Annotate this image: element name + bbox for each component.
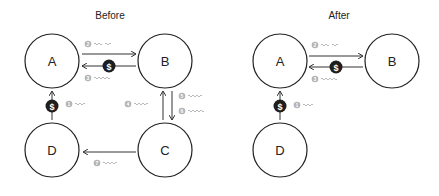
svg-text:$: $ <box>49 102 54 112</box>
node-label: D <box>275 143 284 158</box>
svg-text:2: 2 <box>314 42 317 48</box>
svg-text:1: 1 <box>296 102 299 108</box>
svg-text:1: 1 <box>68 101 71 107</box>
node-label: A <box>48 54 57 69</box>
node-d: D <box>25 123 79 177</box>
svg-text:$: $ <box>277 102 282 112</box>
panel-before: Before A B C D $ $ <box>25 10 204 177</box>
node-c: C <box>138 123 192 177</box>
step-7-label: 7 <box>94 160 117 167</box>
node-b: B <box>365 34 419 88</box>
payment-coin-icon: $ <box>103 60 116 73</box>
svg-text:5: 5 <box>181 93 184 99</box>
node-label: B <box>161 54 170 69</box>
svg-text:2: 2 <box>87 41 90 47</box>
node-label: A <box>276 54 285 69</box>
step-5-label: 5 <box>179 93 202 100</box>
step-3-label: 3 <box>312 76 337 83</box>
node-label: B <box>388 54 397 69</box>
node-a: A <box>25 34 79 88</box>
svg-text:7: 7 <box>96 160 99 166</box>
step-1-label: 1 <box>66 101 85 108</box>
panel-title-before: Before <box>95 10 125 21</box>
step-3-label: 3 <box>85 75 110 82</box>
diagram-canvas: Before A B C D $ $ <box>0 0 439 196</box>
node-label: C <box>160 143 169 158</box>
step-4-label: 4 <box>125 101 148 108</box>
node-label: D <box>47 143 56 158</box>
step-6-label: 6 <box>179 108 204 115</box>
payment-coin-icon: $ <box>274 100 287 113</box>
svg-text:3: 3 <box>314 76 317 82</box>
panel-title-after: After <box>328 10 350 21</box>
svg-text:6: 6 <box>181 108 184 114</box>
svg-text:4: 4 <box>127 101 130 107</box>
step-1-label: 1 <box>294 102 313 109</box>
panel-after: After A B D $ $ 2 <box>253 10 419 177</box>
svg-text:$: $ <box>106 62 111 72</box>
svg-text:$: $ <box>333 63 338 73</box>
node-a: A <box>253 34 307 88</box>
payment-coin-icon: $ <box>330 61 343 74</box>
step-2-label: 2 <box>312 42 338 49</box>
node-d: D <box>253 123 307 177</box>
svg-text:3: 3 <box>87 75 90 81</box>
step-2-label: 2 <box>85 41 111 48</box>
payment-coin-icon: $ <box>46 100 59 113</box>
node-b: B <box>138 34 192 88</box>
